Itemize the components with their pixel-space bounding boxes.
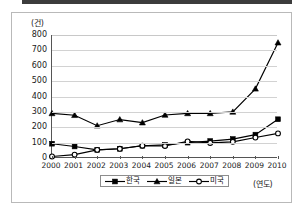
legend-item: 일본 bbox=[147, 177, 182, 186]
x-tick-label: 2010 bbox=[262, 162, 292, 170]
x-tick-mark bbox=[97, 156, 98, 159]
y-tick-label: 300 bbox=[21, 108, 47, 116]
gridline bbox=[52, 112, 277, 113]
y-tick-label: 800 bbox=[21, 31, 47, 39]
x-tick-mark bbox=[233, 156, 234, 159]
gridline bbox=[52, 97, 277, 98]
gridline bbox=[52, 127, 277, 128]
x-tick-mark bbox=[120, 156, 121, 159]
x-tick-mark bbox=[278, 156, 279, 159]
legend-item: 한국 bbox=[105, 177, 140, 186]
y-tick-label: 200 bbox=[21, 123, 47, 131]
x-tick-mark bbox=[75, 156, 76, 159]
top-edge-strip bbox=[22, 0, 292, 4]
data-point-marker bbox=[72, 144, 77, 149]
legend-label: 일본 bbox=[168, 177, 182, 185]
x-tick-mark bbox=[255, 156, 256, 159]
chart-legend: 한국일본미국 bbox=[100, 175, 229, 187]
data-point-marker bbox=[253, 135, 258, 140]
y-tick-label: 400 bbox=[21, 93, 47, 101]
x-axis-unit-label: (연도) bbox=[253, 178, 272, 189]
legend-label: 미국 bbox=[210, 177, 224, 185]
data-point-marker bbox=[276, 117, 281, 122]
gridline bbox=[52, 81, 277, 82]
data-point-marker bbox=[276, 131, 281, 136]
data-point-marker bbox=[252, 86, 258, 91]
y-axis-unit-label: (건) bbox=[31, 17, 44, 28]
gridline bbox=[52, 35, 277, 36]
x-tick-mark bbox=[142, 156, 143, 159]
legend-label: 한국 bbox=[126, 177, 140, 185]
x-tick-mark bbox=[210, 156, 211, 159]
y-tick-label: 100 bbox=[21, 139, 47, 147]
gridline bbox=[52, 143, 277, 144]
y-tick-label: 600 bbox=[21, 62, 47, 70]
data-point-marker bbox=[117, 146, 122, 151]
legend-marker-filled-triangle bbox=[147, 177, 167, 186]
y-tick-label: 500 bbox=[21, 77, 47, 85]
data-point-marker bbox=[163, 144, 168, 149]
x-tick-mark bbox=[52, 156, 53, 159]
x-tick-mark bbox=[165, 156, 166, 159]
data-point-marker bbox=[95, 147, 100, 152]
gridline bbox=[52, 50, 277, 51]
chart-figure: (건) (연도) 8007006005004003002001000 20002… bbox=[0, 0, 303, 215]
data-point-marker bbox=[117, 117, 123, 122]
legend-marker-open-circle bbox=[189, 177, 209, 186]
legend-marker-filled-square bbox=[105, 177, 125, 186]
y-tick-label: 700 bbox=[21, 46, 47, 54]
plot-area bbox=[51, 35, 277, 158]
gridline bbox=[52, 66, 277, 67]
data-point-marker bbox=[140, 143, 145, 148]
legend-item: 미국 bbox=[189, 177, 224, 186]
x-tick-mark bbox=[188, 156, 189, 159]
